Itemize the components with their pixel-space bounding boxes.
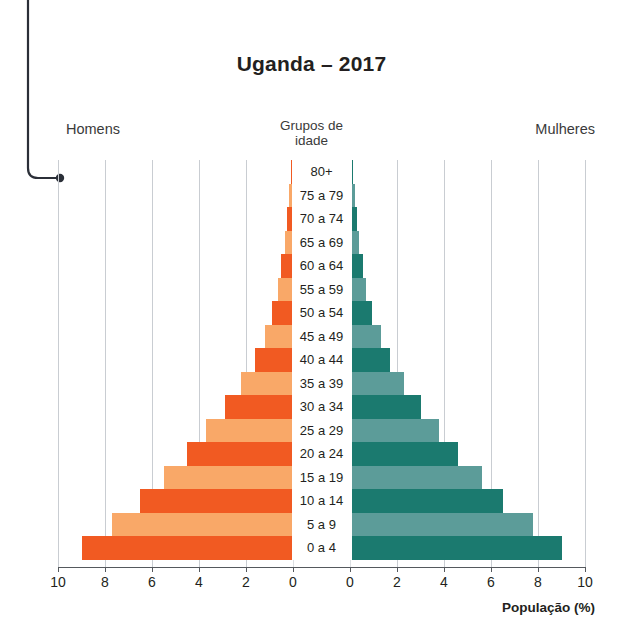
bar-women-15-a-19: [350, 466, 482, 490]
bar-men-15-a-19: [164, 466, 293, 490]
bar-women-60-a-64: [350, 254, 363, 278]
age-group-label: 65 a 69: [292, 231, 352, 255]
tickmark-4: [246, 567, 247, 572]
bar-women-35-a-39: [350, 372, 404, 396]
tick-label-2-4: 2: [242, 574, 250, 590]
pyramid-row: 40 a 44: [58, 348, 585, 372]
tickmark-0: [58, 567, 59, 572]
pyramid-row: 60 a 64: [58, 254, 585, 278]
tickmark-1: [105, 567, 106, 572]
bar-men-45-a-49: [265, 325, 293, 349]
tick-label-8-1: 8: [101, 574, 109, 590]
bar-men-30-a-34: [225, 395, 293, 419]
tickmark-7: [397, 567, 398, 572]
bar-women-45-a-49: [350, 325, 381, 349]
tickmark-5: [293, 567, 294, 572]
tick-label-10-11: 10: [577, 574, 593, 590]
chart-page: Uganda – 2017 Homens Mulheres Grupos de …: [0, 0, 623, 629]
pyramid-row: 65 a 69: [58, 231, 585, 255]
pyramid-row: 35 a 39: [58, 372, 585, 396]
bar-men-40-a-44: [255, 348, 293, 372]
pyramid-plot-area: 80+75 a 7970 a 7465 a 6960 a 6455 a 5950…: [58, 160, 585, 567]
bar-women-40-a-44: [350, 348, 390, 372]
tickmark-11: [585, 567, 586, 572]
pyramid-row: 45 a 49: [58, 325, 585, 349]
tickmark-10: [538, 567, 539, 572]
tick-label-6-9: 6: [487, 574, 495, 590]
tick-label-6-2: 6: [148, 574, 156, 590]
pyramid-row: 0 a 4: [58, 536, 585, 560]
bar-women-55-a-59: [350, 278, 366, 302]
tick-label-4-8: 4: [440, 574, 448, 590]
men-axis-label: Homens: [66, 121, 120, 137]
tick-label-8-10: 8: [534, 574, 542, 590]
age-group-label: 80+: [292, 160, 352, 184]
bar-women-20-a-24: [350, 442, 458, 466]
age-group-label: 20 a 24: [292, 442, 352, 466]
pyramid-row: 70 a 74: [58, 207, 585, 231]
age-group-label: 15 a 19: [292, 466, 352, 490]
bar-men-0-a-4: [82, 536, 294, 560]
bar-men-10-a-14: [140, 489, 293, 513]
bar-women-0-a-4: [350, 536, 562, 560]
tickmark-3: [199, 567, 200, 572]
age-group-label: 60 a 64: [292, 254, 352, 278]
x-axis-tick-labels: 10864200246810: [0, 574, 623, 594]
pyramid-row: 15 a 19: [58, 466, 585, 490]
age-groups-heading: Grupos de idade: [266, 118, 358, 148]
bar-women-50-a-54: [350, 301, 372, 325]
age-group-label: 10 a 14: [292, 489, 352, 513]
tick-label-0-5: 0: [289, 574, 297, 590]
tickmark-8: [444, 567, 445, 572]
page-title: Uganda – 2017: [0, 52, 623, 76]
age-group-label: 55 a 59: [292, 278, 352, 302]
bar-men-25-a-29: [206, 419, 293, 443]
age-group-label: 35 a 39: [292, 372, 352, 396]
age-groups-heading-line1: Grupos de: [266, 118, 358, 133]
bar-men-35-a-39: [241, 372, 293, 396]
tickmark-2: [152, 567, 153, 572]
age-group-label: 30 a 34: [292, 395, 352, 419]
age-group-label: 45 a 49: [292, 325, 352, 349]
tick-label-4-3: 4: [195, 574, 203, 590]
age-group-label: 0 a 4: [292, 536, 352, 560]
pyramid-row: 20 a 24: [58, 442, 585, 466]
pyramid-row: 80+: [58, 160, 585, 184]
pyramid-row: 55 a 59: [58, 278, 585, 302]
age-group-label: 5 a 9: [292, 513, 352, 537]
gridline-right-10: [585, 160, 586, 567]
age-group-label: 75 a 79: [292, 184, 352, 208]
bar-men-5-a-9: [112, 513, 293, 537]
age-group-label: 25 a 29: [292, 419, 352, 443]
bar-men-50-a-54: [272, 301, 293, 325]
pyramid-row: 25 a 29: [58, 419, 585, 443]
tick-label-2-7: 2: [393, 574, 401, 590]
pyramid-row: 30 a 34: [58, 395, 585, 419]
bar-women-10-a-14: [350, 489, 503, 513]
pyramid-row: 10 a 14: [58, 489, 585, 513]
tickmark-9: [491, 567, 492, 572]
bar-women-30-a-34: [350, 395, 421, 419]
pyramid-row: 50 a 54: [58, 301, 585, 325]
pyramid-row: 75 a 79: [58, 184, 585, 208]
pyramid-row: 5 a 9: [58, 513, 585, 537]
bar-men-20-a-24: [187, 442, 293, 466]
bar-women-5-a-9: [350, 513, 533, 537]
women-axis-label: Mulheres: [535, 121, 595, 137]
age-group-label: 70 a 74: [292, 207, 352, 231]
age-group-label: 50 a 54: [292, 301, 352, 325]
bar-women-25-a-29: [350, 419, 439, 443]
age-group-label: 40 a 44: [292, 348, 352, 372]
age-groups-heading-line2: idade: [266, 133, 358, 148]
tick-label-10-0: 10: [50, 574, 66, 590]
x-axis-line: [58, 567, 586, 568]
tick-label-0-6: 0: [346, 574, 354, 590]
x-axis-title: População (%): [502, 600, 595, 615]
tickmark-6: [350, 567, 351, 572]
